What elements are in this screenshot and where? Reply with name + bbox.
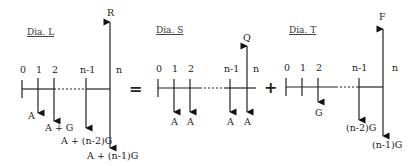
tick-label-1: 1 [300, 62, 306, 73]
diagram-l-title: Dia. L [27, 27, 54, 37]
up-arrow-label: Q [243, 32, 251, 43]
down-label: G [315, 107, 323, 118]
tick-label-n: n [253, 63, 259, 74]
tick-label-2: 2 [188, 63, 194, 74]
tick-label-n-1: n-1 [224, 63, 239, 74]
tick-label-n: n [116, 64, 122, 75]
down-label: A [243, 116, 251, 127]
down-label: A + G [44, 122, 73, 133]
tick-label-n-1: n-1 [352, 62, 367, 73]
down-label: A + (n-1)G [86, 150, 138, 161]
tick-label-0: 0 [284, 62, 290, 73]
down-label: A [27, 110, 35, 121]
down-label: (n-1)G [372, 139, 402, 150]
tick-label-0: 0 [156, 63, 162, 74]
diagram-t-title: Dia. T [289, 25, 316, 35]
down-label: A [170, 116, 178, 127]
diagram-s-title: Dia. S [156, 25, 183, 35]
equals-operator: = [129, 79, 142, 98]
tick-label-n: n [392, 62, 398, 73]
up-arrow-label: F [379, 11, 386, 22]
cash-flow-diagram: Dia. L 0 1 2 n-1 n R A A + G A + (n-2)G … [0, 0, 418, 166]
down-label: (n-2)G [346, 122, 376, 133]
diagram-l: Dia. L 0 1 2 n-1 n R A A + G A + (n-2)G … [20, 7, 138, 161]
tick-label-n-1: n-1 [80, 64, 95, 75]
down-label: A + (n-2)G [60, 135, 112, 146]
down-label: A [186, 116, 194, 127]
plus-operator: + [264, 78, 277, 97]
diagram-t: Dia. T 0 1 2 n-1 n F G (n-2)G (n-1)G [284, 11, 402, 150]
tick-label-1: 1 [172, 63, 178, 74]
tick-label-0: 0 [20, 64, 26, 75]
down-label: A [226, 116, 234, 127]
tick-label-2: 2 [316, 62, 322, 73]
tick-label-2: 2 [52, 64, 58, 75]
diagram-s: Dia. S 0 1 2 n-1 n Q A A A A [156, 25, 259, 127]
up-arrow-label: R [107, 7, 115, 18]
tick-label-1: 1 [36, 64, 42, 75]
